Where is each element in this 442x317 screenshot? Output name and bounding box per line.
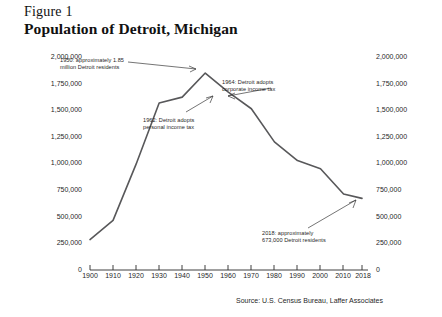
annotation-1962-personal-tax: 1962: Detroit adopts personal income tax (143, 117, 228, 131)
annotation-1950-peak: 1950: approximately 1.85 million Detroit… (60, 57, 140, 71)
annotation-1964-corporate-tax: 1964: Detroit adopts corporate income ta… (222, 79, 312, 93)
annotation-2018-population: 2018: approximately 673,000 Detroit resi… (262, 230, 354, 244)
x-axis-tickmarks (90, 265, 362, 270)
figure-container: Figure 1 Population of Detroit, Michigan… (0, 0, 442, 317)
chart-svg (0, 0, 442, 317)
chart-plot-area: 2,000,000 1,750,000 1,500,000 1,250,000 … (0, 0, 442, 317)
source-note: Source: U.S. Census Bureau, Laffer Assoc… (236, 297, 383, 304)
population-line-series (90, 73, 362, 240)
